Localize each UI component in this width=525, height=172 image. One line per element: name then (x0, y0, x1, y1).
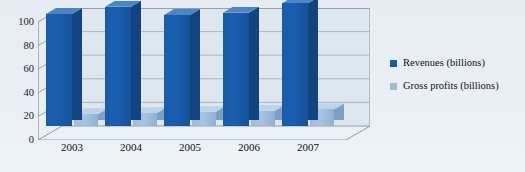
x-tick-label: 2004 (99, 142, 163, 153)
legend-label: Revenues (billions) (403, 58, 485, 69)
y-tick-label: 60 (24, 64, 35, 75)
chart-legend: Revenues (billions) Gross profits (billi… (390, 57, 522, 103)
bar-revenues (282, 3, 308, 126)
bar-revenues (223, 13, 249, 126)
x-tick-label: 2003 (40, 142, 104, 153)
legend-label: Gross profits (billions) (403, 81, 499, 92)
legend-swatch-icon (390, 83, 397, 90)
x-axis: 20032004200520062007 (38, 142, 370, 164)
legend-item-revenues: Revenues (billions) (390, 57, 522, 69)
y-tick-label: 100 (18, 17, 34, 28)
legend-swatch-icon (390, 60, 397, 67)
y-tick-label: 80 (24, 41, 35, 52)
bar-revenues (164, 15, 190, 126)
x-tick-label: 2005 (158, 142, 222, 153)
x-tick-label: 2006 (217, 142, 281, 153)
bar-revenues (105, 7, 131, 126)
bar-revenues (46, 14, 72, 126)
y-axis: 100 80 60 40 20 0 (0, 8, 34, 140)
y-tick-label: 40 (24, 88, 35, 99)
chart-container: 100 80 60 40 20 0 20032004200520062007 R… (0, 0, 525, 172)
y-tick-label: 20 (24, 111, 35, 122)
y-tick-label: 0 (29, 135, 34, 146)
bars-layer (38, 8, 370, 140)
legend-item-gross-profits: Gross profits (billions) (390, 80, 522, 92)
x-tick-label: 2007 (276, 142, 340, 153)
